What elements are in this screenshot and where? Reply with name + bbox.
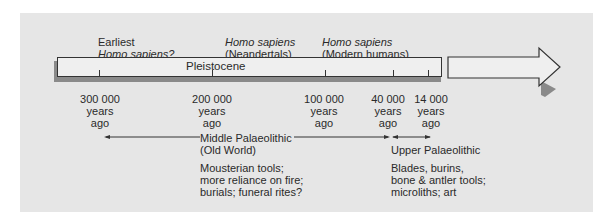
- marker-value: 100 000: [304, 93, 344, 105]
- time-marker-100000: 100 000 years ago: [304, 93, 344, 129]
- marker-unit: years: [80, 105, 120, 117]
- marker-value: 200 000: [192, 93, 232, 105]
- era-subtitle: (Old World): [200, 144, 303, 156]
- era-note: bone & antler tools;: [391, 174, 486, 186]
- era-note: burials; funeral rites?: [200, 186, 303, 198]
- marker-unit: years: [304, 105, 344, 117]
- marker-suffix: ago: [413, 117, 449, 129]
- marker-value: 14 000: [413, 93, 449, 105]
- time-marker-200000: 200 000 years ago: [192, 93, 232, 129]
- marker-value: 40 000: [368, 93, 408, 105]
- era-note: more reliance on fire;: [200, 174, 303, 186]
- marker-unit: years: [368, 105, 408, 117]
- marker-suffix: ago: [368, 117, 408, 129]
- marker-unit: years: [413, 105, 449, 117]
- era-upper-palaeolithic: Upper Palaeolithic Blades, burins, bone …: [391, 144, 486, 198]
- era-note: Blades, burins,: [391, 162, 486, 174]
- era-note: Mousterian tools;: [200, 162, 303, 174]
- era-name: Middle Palaeolithic: [200, 132, 294, 144]
- time-marker-14000: 14 000 years ago: [413, 93, 449, 129]
- marker-value: 300 000: [80, 93, 120, 105]
- marker-suffix: ago: [304, 117, 344, 129]
- era-note: microliths; art: [391, 186, 486, 198]
- time-marker-40000: 40 000 years ago: [368, 93, 408, 129]
- time-marker-300000: 300 000 years ago: [80, 93, 120, 129]
- era-name: Upper Palaeolithic: [391, 144, 486, 156]
- era-middle-palaeolithic: Middle Palaeolithic (Old World) Mousteri…: [200, 132, 303, 198]
- marker-suffix: ago: [80, 117, 120, 129]
- marker-suffix: ago: [192, 117, 232, 129]
- marker-unit: years: [192, 105, 232, 117]
